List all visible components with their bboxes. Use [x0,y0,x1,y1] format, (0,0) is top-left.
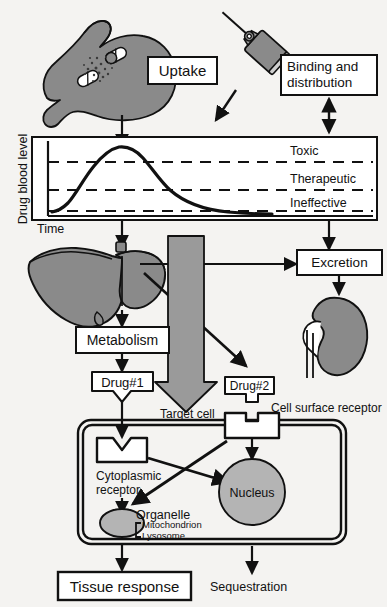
cytoplasmic-receptor-label-line1: Cytoplasmic [96,469,161,483]
drug2-label: Drug#2 [230,379,270,393]
drug1-label: Drug#1 [101,375,144,390]
uptake-box[interactable]: Uptake [148,57,217,84]
chart-label-toxic: Toxic [290,144,318,158]
sequestration-label: Sequestration [210,580,287,594]
chart-label-therapeutic: Therapeutic [290,172,356,186]
drug-blood-level-chart: Toxic Therapeutic Ineffective Drug blood… [16,134,377,236]
lysosome-label: Lysosome [142,530,185,541]
pharmacokinetics-diagram: Uptake Binding and distribution Toxic Th… [0,0,387,607]
chart-label-ineffective: Ineffective [290,196,347,210]
binding-distribution-box[interactable]: Binding and distribution [281,55,377,95]
chart-x-axis-label: Time [37,222,64,236]
nucleus: Nucleus [219,459,285,525]
cell-surface-receptor-label: Cell surface receptor [271,401,382,415]
uptake-label: Uptake [159,62,207,79]
excretion-label: Excretion [311,255,367,270]
diagram-canvas: Uptake Binding and distribution Toxic Th… [0,0,387,607]
excretion-box[interactable]: Excretion [297,250,382,275]
nucleus-label: Nucleus [229,486,274,500]
mitochondrion-label: Mitochondrion [142,519,202,530]
tissue-response-box[interactable]: Tissue response [58,572,191,600]
binding-distribution-label-line2: distribution [287,75,352,90]
metabolism-box[interactable]: Metabolism [76,327,169,353]
binding-distribution-label-line1: Binding and [287,59,358,74]
tissue-response-label: Tissue response [70,578,180,595]
cytoplasmic-receptor-label-line2: receptor [96,483,140,497]
chart-y-axis-label: Drug blood level [16,134,30,224]
metabolism-label: Metabolism [87,332,159,348]
